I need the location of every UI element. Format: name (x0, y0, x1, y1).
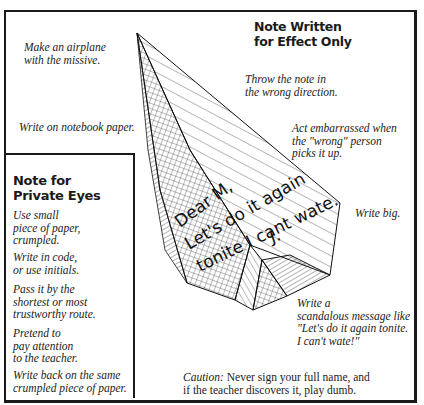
caution-text: Caution: Never sign your full name, and … (183, 371, 370, 396)
annotation-airplane: Make an airplane with the missive. (24, 41, 106, 66)
annotation-embarrassed: Act embarrassed when the "wrong" person … (292, 122, 397, 160)
private-tip: Pretend to pay attention to the teacher. (13, 327, 78, 365)
annotation-throw: Throw the note in the wrong direction. (245, 73, 338, 98)
annotation-big: Write big. (355, 207, 400, 220)
private-tip: Write in code, or use initials. (13, 251, 79, 276)
annotation-scandalous: Write a scandalous message like "Let's d… (297, 297, 410, 347)
annotation-notebook: Write on notebook paper. (19, 121, 135, 134)
private-tip: Write back on the same crumpled piece of… (13, 369, 127, 394)
private-tip: Pass it by the shortest or most trustwor… (13, 283, 96, 321)
effect-panel-title: Note Written for Effect Only (254, 19, 352, 49)
private-panel-title: Note for Private Eyes (13, 173, 101, 203)
private-tip: Use small piece of paper, crumpled. (13, 209, 80, 247)
